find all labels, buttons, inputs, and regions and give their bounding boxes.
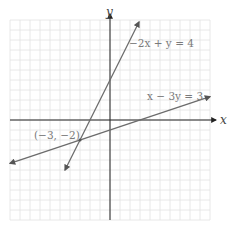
x-axis-label: x <box>220 113 227 127</box>
series-line-1 <box>65 22 139 170</box>
series-label-line1: −2x + y = 4 <box>129 37 194 49</box>
chart: x y −2x + y = 4 x − 3y = 3 (−3, −2) <box>0 0 231 232</box>
labels: x y −2x + y = 4 x − 3y = 3 (−3, −2) <box>34 5 227 141</box>
intersection-label: (−3, −2) <box>34 129 80 141</box>
series-label-line2: x − 3y = 3 <box>147 90 203 102</box>
y-axis-label: y <box>105 5 113 19</box>
